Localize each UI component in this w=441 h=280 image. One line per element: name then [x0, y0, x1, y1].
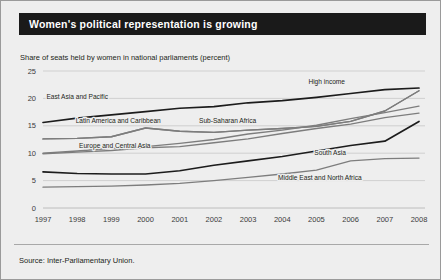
x-tick-label: 1997 [35, 215, 52, 224]
x-tick-label: 2003 [240, 215, 257, 224]
series-label: Europe and Central Asia [79, 142, 151, 150]
series-label: Latin America and Caribbean [76, 117, 161, 124]
y-tick-label: 25 [28, 67, 36, 76]
chart-figure: Women's political representation is grow… [0, 0, 441, 280]
series-label: Middle East and North Africa [278, 174, 362, 181]
chart-title-bar: Women's political representation is grow… [19, 13, 426, 35]
x-tick-label: 2008 [411, 215, 428, 224]
series-label: East Asia and Pacific [46, 93, 108, 100]
x-tick-label: 1999 [103, 215, 120, 224]
series-labels-group: High incomeHigh incomeEast Asia and Paci… [46, 78, 362, 181]
y-tick-label: 5 [32, 176, 36, 185]
y-tick-label: 0 [32, 204, 36, 213]
x-tick-label: 2001 [171, 215, 188, 224]
x-tick-label: 2004 [274, 215, 291, 224]
x-tick-label: 1998 [69, 215, 86, 224]
y-axis-tick-labels: 0510152025 [28, 67, 36, 213]
series-label: Sub-Saharan Africa [199, 117, 257, 124]
source-note: Source: Inter-Parliamentary Union. [19, 256, 134, 265]
x-axis-tick-labels: 1997199819992000200120022003200420052006… [35, 215, 428, 224]
series-lines-group [43, 88, 419, 187]
line-chart-svg: 0510152025 19971998199920002001200220032… [1, 61, 441, 236]
series-label: South Asia [314, 149, 346, 156]
plot-area: 0510152025 19971998199920002001200220032… [1, 61, 441, 236]
x-tick-label: 2002 [206, 215, 223, 224]
y-tick-label: 15 [28, 121, 36, 130]
footer-divider [14, 244, 429, 245]
y-tick-label: 10 [28, 149, 36, 158]
y-tick-label: 20 [28, 94, 36, 103]
x-tick-label: 2005 [308, 215, 325, 224]
series-label: High income [308, 78, 345, 86]
x-tick-label: 2006 [342, 215, 359, 224]
x-tick-label: 2007 [376, 215, 393, 224]
x-tick-label: 2000 [137, 215, 154, 224]
page-title: Women's political representation is grow… [19, 18, 258, 30]
